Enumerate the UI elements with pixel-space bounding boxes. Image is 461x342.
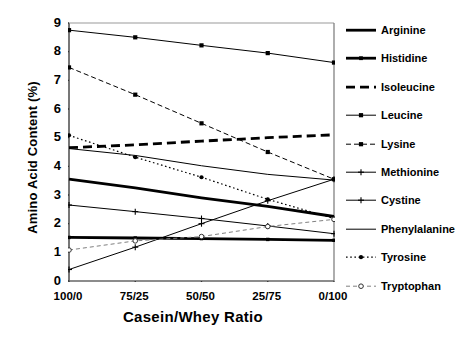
series-line [69, 179, 334, 216]
data-point-marker [68, 202, 72, 208]
data-point-marker [68, 28, 71, 32]
chart-container: Amino Acid Content (%) Casein/Whey Ratio… [0, 0, 461, 342]
data-point-marker [68, 267, 72, 273]
legend-item-cystine[interactable]: Cystine [344, 186, 461, 214]
legend-key-icon [344, 44, 378, 72]
data-point-marker [199, 234, 204, 239]
legend-label: Tryptophan [381, 280, 441, 292]
legend-label: Phenylalanine [381, 223, 455, 235]
data-point-marker [68, 236, 71, 239]
series-isoleucine [69, 135, 334, 148]
legend-item-tyrosine[interactable]: Tyrosine [344, 243, 461, 271]
y-tick-label: 7 [39, 73, 61, 86]
x-tick-label: 75/25 [104, 291, 164, 303]
data-point-marker [199, 175, 203, 179]
legend-key-icon [344, 215, 378, 243]
legend-item-histidine[interactable]: Histidine [344, 44, 461, 72]
data-point-marker [132, 244, 138, 250]
legend-item-phenylalanine[interactable]: Phenylalanine [344, 215, 461, 243]
x-tick-label: 0/100 [303, 291, 363, 303]
legend-label: Lysine [381, 138, 415, 150]
data-point-marker [266, 197, 270, 201]
data-point-marker [266, 51, 270, 55]
data-point-marker [331, 231, 335, 237]
data-point-marker [266, 238, 269, 241]
chart-legend: ArginineHistidineIsoleucineLeucineLysine… [344, 16, 461, 300]
y-tick-label: 3 [39, 188, 61, 201]
data-point-marker [266, 150, 270, 154]
legend-label: Isoleucine [381, 81, 435, 93]
legend-key-icon [344, 186, 378, 214]
legend-item-leucine[interactable]: Leucine [344, 101, 461, 129]
data-point-marker [199, 221, 205, 227]
x-tick-label: 50/50 [171, 291, 231, 303]
data-point-marker [133, 93, 137, 97]
legend-item-lysine[interactable]: Lysine [344, 130, 461, 158]
legend-key-icon [344, 243, 378, 271]
legend-item-isoleucine[interactable]: Isoleucine [344, 73, 461, 101]
y-tick-label: 4 [39, 159, 61, 172]
legend-key-icon [344, 16, 378, 44]
data-point-marker [68, 133, 71, 137]
data-point-marker [332, 239, 335, 242]
legend-label: Arginine [381, 24, 426, 36]
data-point-marker [68, 65, 71, 69]
series-line [69, 135, 334, 148]
data-point-marker [132, 209, 138, 215]
legend-label: Tyrosine [381, 251, 426, 263]
legend-item-arginine[interactable]: Arginine [344, 16, 461, 44]
y-tick-label: 0 [39, 274, 61, 287]
legend-item-methionine[interactable]: Methionine [344, 158, 461, 186]
data-point-marker [133, 155, 137, 159]
data-point-marker [332, 217, 335, 222]
plot-area [68, 22, 333, 280]
x-axis-title: Casein/Whey Ratio [48, 308, 338, 325]
plot-svg [68, 22, 335, 282]
x-tick-label: 25/75 [237, 291, 297, 303]
x-tick-label: 100/0 [38, 291, 98, 303]
legend-label: Cystine [381, 194, 421, 206]
legend-key-icon [344, 130, 378, 158]
y-tick-label: 6 [39, 102, 61, 115]
legend-key-icon [344, 101, 378, 129]
y-tick-label: 9 [39, 16, 61, 29]
y-tick-label: 8 [39, 44, 61, 57]
data-point-marker [199, 121, 203, 125]
legend-label: Histidine [381, 52, 427, 64]
data-point-marker [133, 239, 138, 244]
y-tick-label: 5 [39, 130, 61, 143]
data-point-marker [133, 35, 137, 39]
data-point-marker [332, 60, 335, 64]
legend-label: Leucine [381, 109, 423, 121]
y-tick-label: 2 [39, 216, 61, 229]
legend-key-icon [344, 158, 378, 186]
data-point-marker [199, 216, 205, 222]
legend-key-icon [344, 73, 378, 101]
legend-label: Methionine [381, 166, 439, 178]
data-point-marker [68, 248, 71, 253]
series-arginine [69, 179, 334, 216]
y-axis-title: Amino Acid Content (%) [25, 38, 40, 278]
y-tick-label: 1 [39, 245, 61, 258]
data-point-marker [199, 43, 203, 47]
data-point-marker [265, 224, 270, 229]
